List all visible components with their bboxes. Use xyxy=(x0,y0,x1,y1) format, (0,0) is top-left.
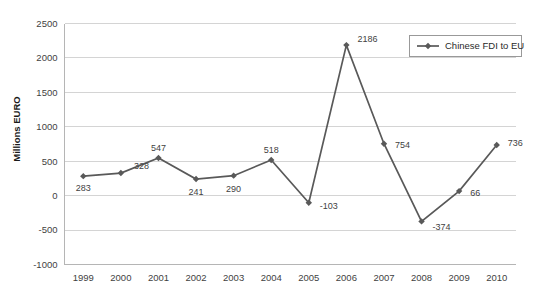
y-tick-label: 2000 xyxy=(36,52,57,63)
x-tick-label: 2000 xyxy=(110,272,131,283)
y-tick-label: -1000 xyxy=(33,259,57,270)
x-tick-label: 2009 xyxy=(449,272,470,283)
data-point-label: 2186 xyxy=(357,34,377,44)
legend-entry-label: Chinese FDI to EU xyxy=(445,40,524,51)
y-axis-title: Millions EURO xyxy=(11,96,22,161)
x-tick-label: 2002 xyxy=(185,272,206,283)
chart-legend[interactable]: Chinese FDI to EU xyxy=(409,36,524,57)
x-tick-label: 2003 xyxy=(223,272,244,283)
x-tick-label: 2004 xyxy=(261,272,282,283)
data-point-label: 66 xyxy=(470,188,480,198)
data-point-label: 241 xyxy=(189,187,204,197)
x-tick-label: 2005 xyxy=(298,272,319,283)
data-point-label: 328 xyxy=(134,161,149,171)
chart-container: 25002000150010005000-500-1000 Millions E… xyxy=(0,0,540,299)
y-tick-label: 500 xyxy=(42,156,58,167)
x-tick-label: 2008 xyxy=(411,272,432,283)
x-tick-label: 2001 xyxy=(148,272,169,283)
data-point-label: -103 xyxy=(320,201,338,211)
line-chart: 25002000150010005000-500-1000 Millions E… xyxy=(0,0,540,299)
y-tick-label: 1000 xyxy=(36,121,57,132)
x-tick-label: 2007 xyxy=(373,272,394,283)
y-tick-label: -500 xyxy=(38,224,57,235)
data-point-label: 518 xyxy=(264,145,279,155)
x-tick-label: 1999 xyxy=(73,272,94,283)
data-point-label: -374 xyxy=(433,222,451,232)
y-tick-label: 0 xyxy=(52,190,57,201)
data-point-label: 754 xyxy=(395,140,410,150)
y-tick-label: 1500 xyxy=(36,87,57,98)
y-tick-label: 2500 xyxy=(36,18,57,29)
data-point-label: 290 xyxy=(226,184,241,194)
x-tick-label: 2010 xyxy=(486,272,507,283)
x-tick-label: 2006 xyxy=(336,272,357,283)
data-point-label: 736 xyxy=(508,138,523,148)
data-point-label: 547 xyxy=(151,143,166,153)
data-point-label: 283 xyxy=(76,183,91,193)
